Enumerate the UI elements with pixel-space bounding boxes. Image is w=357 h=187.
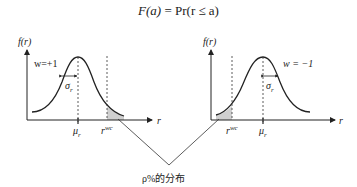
left-x-axis-label: r [157,115,161,126]
diagram-canvas [0,0,357,187]
right-weight-label: w = −1 [283,58,313,69]
left-shaded-tail [107,107,124,120]
right-shaded-tail [216,106,232,120]
right-y-axis-label: f(r) [203,36,216,47]
left-y-axis-label: f(r) [18,36,31,47]
distribution-caption: ρ%的分布 [142,170,185,185]
connector-left [118,119,169,165]
right-rwc-label: rwc [226,124,238,136]
left-mu-label: μr [73,125,81,139]
left-weight-label: w=+1 [34,58,58,69]
right-sigma-label: σr [266,80,274,94]
left-rwc-label: rwc [101,124,113,136]
right-mu-label: μr [259,125,267,139]
right-x-axis-label: r [339,115,343,126]
left-sigma-label: σr [65,80,73,94]
connector-right [169,119,219,165]
